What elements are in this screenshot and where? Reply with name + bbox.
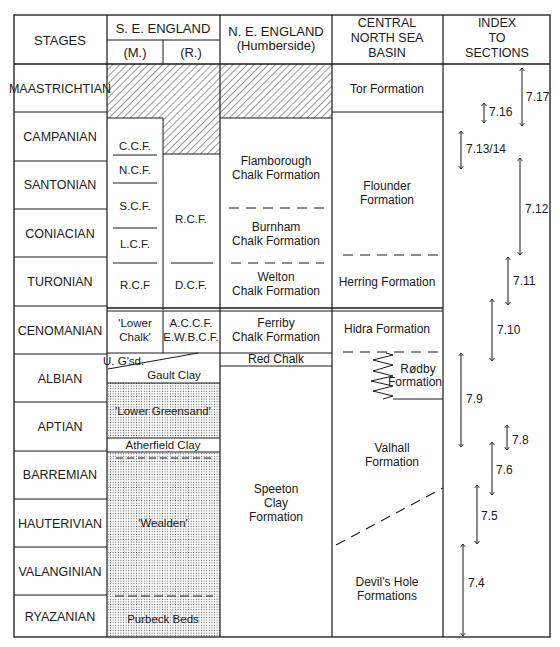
stipple-wealden <box>108 452 220 637</box>
unit-speeton-clay: Formation <box>249 510 303 524</box>
header-cns-1: CENTRAL <box>358 16 416 30</box>
stage-label: RYAZANIAN <box>25 610 95 624</box>
section-range-7-16[interactable]: 7.16 <box>484 103 513 123</box>
stage-label: VALANGINIAN <box>18 565 101 579</box>
svg-text:7.11: 7.11 <box>513 274 536 288</box>
unit-atherfield-clay: Atherfield Clay <box>126 439 201 451</box>
unit-welton: Chalk Formation <box>232 284 320 298</box>
header-index-2: TO <box>488 31 505 45</box>
stage-label: CONIACIAN <box>25 227 94 241</box>
unit-valhall: Formation <box>365 455 419 469</box>
svg-text:7.10: 7.10 <box>497 323 521 337</box>
svg-text:7.5: 7.5 <box>481 509 498 523</box>
unit-wealden: 'Wealden' <box>138 517 188 529</box>
unit-ferriby: Ferriby <box>257 316 294 330</box>
stage-label: HAUTERIVIAN <box>18 517 102 531</box>
section-range-7-9[interactable]: 7.9 <box>461 353 483 447</box>
section-range-7-17[interactable]: 7.17 <box>522 68 550 126</box>
header-index-3: SECTIONS <box>465 46 529 60</box>
unit-herring: Herring Formation <box>339 275 436 289</box>
unit-flamborough: Flamborough <box>241 154 312 168</box>
section-range-7-8[interactable]: 7.8 <box>507 425 529 450</box>
stage-labels: MAASTRICHTIAN CAMPANIAN SANTONIAN CONIAC… <box>9 82 111 624</box>
svg-text:7.9: 7.9 <box>466 392 483 406</box>
section-range-7-5[interactable]: 7.5 <box>477 485 498 544</box>
hatch-se-r <box>163 64 220 154</box>
svg-text:7.13/14: 7.13/14 <box>466 142 506 156</box>
unit-accf: A.C.C.F. <box>170 317 213 329</box>
unit-lower-chalk: 'Lower <box>118 317 152 329</box>
section-range-7-12[interactable]: 7.12 <box>520 158 549 255</box>
header-stages: STAGES <box>34 33 86 48</box>
unit-burnham: Chalk Formation <box>232 234 320 248</box>
unit-speeton-clay: Speeton <box>254 482 299 496</box>
stippled-areas <box>108 383 220 637</box>
unit-lcf: L.C.F. <box>120 238 150 250</box>
stage-label: BARREMIAN <box>23 468 97 482</box>
header-ne-england: N. E. ENGLAND <box>228 24 323 39</box>
se-england-r-units: R.C.F. D.C.F. A.C.C.F. E.W.B.C.F. <box>163 213 219 343</box>
unit-tor: Tor Formation <box>350 82 424 96</box>
stage-label: CENOMANIAN <box>18 324 103 338</box>
unit-devils-hole: Formations <box>357 589 417 603</box>
section-range-7-10[interactable]: 7.10 <box>492 299 521 361</box>
svg-text:7.8: 7.8 <box>512 433 529 447</box>
unit-lower-greensand: 'Lower Greensand' <box>115 405 211 417</box>
unit-speeton-clay: Clay <box>264 496 288 510</box>
unit-ewbcf: E.W.B.C.F. <box>163 331 219 343</box>
svg-text:7.6: 7.6 <box>496 463 513 477</box>
unit-rcf-r: R.C.F. <box>175 213 207 225</box>
unit-rodby: Formation <box>388 375 442 389</box>
svg-text:7.4: 7.4 <box>468 576 485 590</box>
header-cns-2: NORTH SEA <box>351 31 424 45</box>
svg-text:7.16: 7.16 <box>489 105 513 119</box>
svg-text:7.12: 7.12 <box>525 202 549 216</box>
section-range-7-4[interactable]: 7.4 <box>463 544 485 636</box>
unit-burnham: Burnham <box>252 220 301 234</box>
unit-flounder: Formation <box>360 193 414 207</box>
column-headers: STAGES S. E. ENGLAND (M.) (R.) N. E. ENG… <box>34 16 529 60</box>
unit-ccf: C.C.F. <box>119 140 151 152</box>
unit-valhall: Valhall <box>374 441 409 455</box>
unit-welton: Welton <box>257 270 294 284</box>
index-to-sections: 7.17 7.16 7.13/14 7.12 7.11 7.10 7.9 7. <box>461 68 550 636</box>
svg-text:7.17: 7.17 <box>526 90 550 104</box>
cns-units: Tor Formation Flounder Formation Herring… <box>339 82 442 603</box>
section-range-7-11[interactable]: 7.11 <box>508 257 536 305</box>
stage-label: APTIAN <box>37 420 82 434</box>
header-cns-3: BASIN <box>368 46 406 60</box>
hatch-se-m <box>107 64 163 118</box>
unit-red-chalk: Red Chalk <box>248 352 305 366</box>
unit-devils-hole: Devil's Hole <box>356 575 419 589</box>
unit-dcf: D.C.F. <box>175 279 207 291</box>
unit-gault-clay: Gault Clay <box>147 369 201 381</box>
stage-label: ALBIAN <box>38 372 82 386</box>
unit-flounder: Flounder <box>363 179 410 193</box>
unit-upper-greensand: U. G'sd. <box>103 355 144 367</box>
stage-label: SANTONIAN <box>24 178 97 192</box>
stage-label: CAMPANIAN <box>23 130 96 144</box>
unit-lower-chalk: Chalk' <box>119 331 151 343</box>
hatch-ne <box>220 64 332 118</box>
stratigraphic-correlation-chart: STAGES S. E. ENGLAND (M.) (R.) N. E. ENG… <box>0 0 560 647</box>
header-ne-humberside: (Humberside) <box>237 38 316 53</box>
stage-label: TURONIAN <box>27 275 92 289</box>
unit-flamborough: Chalk Formation <box>232 168 320 182</box>
header-index-1: INDEX <box>478 16 517 30</box>
unit-rcf-m: R.C.F <box>120 279 150 291</box>
header-se-england: S. E. ENGLAND <box>116 21 211 36</box>
unit-ncf: N.C.F. <box>119 164 151 176</box>
header-se-m: (M.) <box>123 45 146 60</box>
unit-hidra: Hidra Formation <box>344 322 430 336</box>
ne-england-units: Flamborough Chalk Formation Burnham Chal… <box>232 154 320 524</box>
unit-scf: S.C.F. <box>119 200 150 212</box>
stage-label: MAASTRICHTIAN <box>9 82 111 96</box>
section-range-7-13-14[interactable]: 7.13/14 <box>461 131 506 169</box>
section-range-7-6[interactable]: 7.6 <box>492 442 513 495</box>
unit-ferriby: Chalk Formation <box>232 330 320 344</box>
header-se-r: (R.) <box>180 45 202 60</box>
unit-rodby: Rødby <box>400 362 435 376</box>
unit-purbeck-beds: Purbeck Beds <box>127 613 199 625</box>
